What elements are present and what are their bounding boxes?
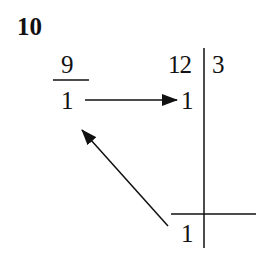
diagonal-arrow-icon	[82, 130, 168, 226]
diagram-lines	[0, 0, 268, 256]
